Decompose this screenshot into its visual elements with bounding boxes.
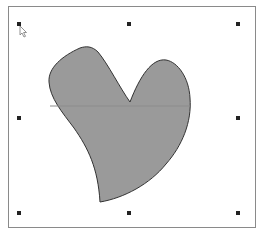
selected-freeform-shape[interactable] <box>49 47 190 202</box>
arrow-pointer-icon <box>19 26 29 38</box>
selection-handle-bottom-center[interactable] <box>127 211 131 215</box>
drawing-canvas[interactable] <box>0 0 264 235</box>
selection-handle-middle-right[interactable] <box>236 116 240 120</box>
selection-handle-middle-left[interactable] <box>17 116 21 120</box>
selection-handle-bottom-left[interactable] <box>17 211 21 215</box>
selection-handle-bottom-right[interactable] <box>236 211 240 215</box>
selection-handle-top-right[interactable] <box>236 22 240 26</box>
selection-handle-top-center[interactable] <box>127 22 131 26</box>
